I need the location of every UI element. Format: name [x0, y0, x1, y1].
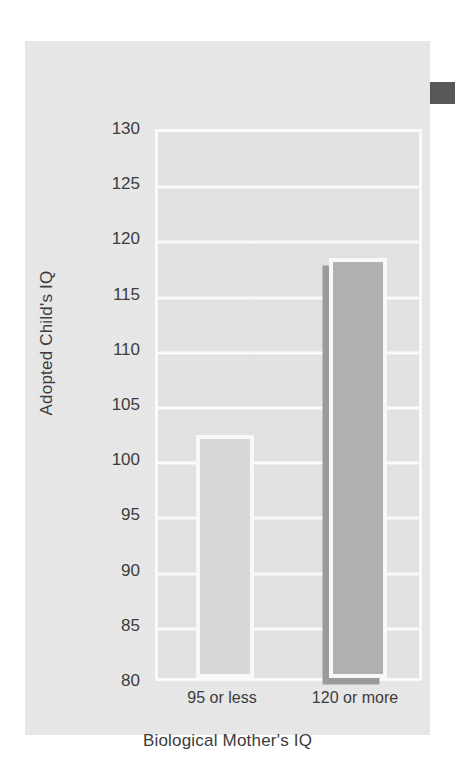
y-axis-tick-label: 130: [112, 119, 140, 139]
x-axis-title: Biological Mother's IQ: [25, 731, 430, 751]
y-axis-tick-label: 95: [121, 505, 140, 525]
bar: [196, 435, 254, 678]
bar: [329, 258, 387, 678]
y-axis-title: Adopted Child's IQ: [37, 243, 57, 443]
y-axis-tick-label: 120: [112, 229, 140, 249]
x-axis-tick-labels: 95 or less120 or more: [155, 689, 422, 715]
y-axis-tick-label: 115: [113, 285, 140, 305]
plot-area: [155, 129, 422, 681]
y-axis-tick-label: 110: [113, 340, 140, 360]
y-axis-tick-label: 85: [121, 616, 140, 636]
y-axis-tick-labels: 13012512011511010510095908580: [80, 129, 140, 681]
y-axis-tick-label: 125: [112, 174, 140, 194]
y-axis-tick-label: 105: [112, 395, 140, 415]
y-axis-tick-label: 80: [121, 671, 140, 691]
x-axis-tick-label: 120 or more: [312, 689, 398, 707]
bars-layer: [158, 132, 419, 678]
x-axis-tick-label: 95 or less: [187, 689, 256, 707]
y-axis-tick-label: 90: [121, 561, 140, 581]
y-axis-tick-label: 100: [112, 450, 140, 470]
chart-figure-panel: Adopted Child's IQ 130125120115110105100…: [25, 41, 430, 735]
